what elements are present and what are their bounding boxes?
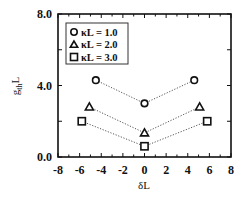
x-tick-label: 0 — [142, 163, 148, 177]
chart: -8-6-4-202468 0.04.08.0 κL = 1.0 κL = 2.… — [0, 0, 248, 200]
x-tick-label: -8 — [53, 163, 63, 177]
x-tick-label: -2 — [118, 163, 128, 177]
series-markers — [78, 77, 211, 150]
triangle-marker — [85, 103, 93, 110]
y-tick-label: 4.0 — [37, 79, 52, 93]
circle-marker — [141, 100, 148, 107]
x-tick-label: -4 — [96, 163, 106, 177]
triangle-marker — [196, 103, 204, 110]
y-axis-title: gthL — [9, 77, 24, 96]
legend-label-3: κL = 3.0 — [81, 52, 118, 63]
x-tick-label: -6 — [75, 163, 85, 177]
legend: κL = 1.0 κL = 2.0 κL = 3.0 — [66, 23, 128, 64]
square-icon — [71, 54, 78, 61]
x-tick-label: 6 — [206, 163, 212, 177]
x-tick-label: 4 — [185, 163, 191, 177]
square-marker — [204, 118, 211, 125]
legend-label-2: κL = 2.0 — [81, 39, 118, 50]
x-tick-label: 8 — [228, 163, 234, 177]
x-tick-label: 2 — [163, 163, 169, 177]
svg-text:gthL: gthL — [9, 77, 24, 96]
legend-label-1: κL = 1.0 — [81, 27, 118, 38]
square-marker — [141, 143, 148, 150]
triangle-marker — [141, 129, 149, 136]
y-tick-label: 0.0 — [37, 150, 52, 164]
circle-marker — [191, 77, 198, 84]
circle-icon — [71, 29, 77, 35]
square-marker — [78, 118, 85, 125]
circle-marker — [93, 77, 100, 84]
x-axis-title: δL — [138, 179, 150, 191]
y-title-tail: L — [9, 77, 21, 84]
y-tick-label: 8.0 — [37, 7, 52, 21]
